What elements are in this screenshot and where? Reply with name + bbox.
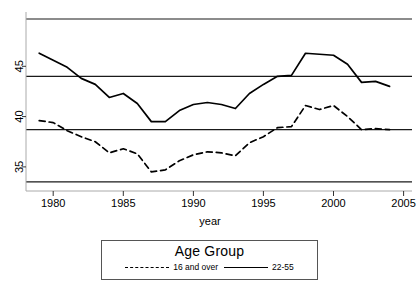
line-chart-svg: 354045 198019851990199520002005 year (0, 0, 419, 232)
x-tick-label-2005: 2005 (391, 197, 415, 209)
series-line-16-and-over (39, 106, 389, 172)
x-axis-title: year (199, 215, 221, 227)
legend-label-22-55: 22-55 (272, 262, 294, 272)
solid-line-swatch-icon (224, 264, 268, 271)
axes-group (26, 12, 412, 191)
x-tick-group: 198019851990199520002005 (41, 191, 416, 209)
chart-legend: Age Group 16 and over 22-55 (101, 240, 318, 280)
plot-area: 354045 198019851990199520002005 year (0, 0, 419, 232)
y-tick-label-35: 35 (13, 161, 25, 173)
legend-entry-16-and-over: 16 and over (125, 262, 218, 272)
x-tick-label-1980: 1980 (41, 197, 65, 209)
x-tick-label-1990: 1990 (181, 197, 205, 209)
legend-label-16-and-over: 16 and over (173, 262, 218, 272)
y-tick-label-45: 45 (13, 60, 25, 72)
dashed-line-swatch-icon (125, 264, 169, 271)
data-series-group (39, 53, 389, 172)
legend-entry-22-55: 22-55 (224, 262, 294, 272)
x-tick-label-1995: 1995 (251, 197, 275, 209)
legend-entries: 16 and over 22-55 (102, 261, 317, 272)
series-line-22-55 (39, 53, 389, 121)
y-tick-label-40: 40 (13, 110, 25, 122)
chart-figure: 354045 198019851990199520002005 year Age… (0, 0, 419, 283)
y-tick-group: 354045 (13, 60, 26, 173)
x-tick-label-2000: 2000 (321, 197, 345, 209)
legend-title: Age Group (102, 241, 317, 261)
x-tick-label-1985: 1985 (111, 197, 135, 209)
reference-lines-group (26, 19, 412, 182)
